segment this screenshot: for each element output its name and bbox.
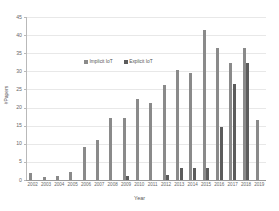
- x-tick-label: 2011: [146, 182, 159, 187]
- y-tick-label: 40: [5, 33, 22, 38]
- x-tick-label: 2019: [253, 182, 266, 187]
- y-tick-label: 35: [5, 51, 22, 56]
- bar-implicit-iot-2006: [83, 147, 86, 180]
- chart-legend: Implicit IoTExplicit IoT: [84, 59, 153, 64]
- bar-implicit-iot-2017: [229, 63, 232, 180]
- legend-swatch-icon: [124, 60, 128, 64]
- legend-entry: Implicit IoT: [84, 59, 113, 64]
- x-tick-label: 2012: [159, 182, 172, 187]
- bar-implicit-iot-2007: [96, 140, 99, 180]
- y-axis-line: [26, 17, 27, 180]
- x-tick-label: 2018: [239, 182, 252, 187]
- x-tick-label: 2017: [226, 182, 239, 187]
- legend-swatch-icon: [84, 60, 88, 64]
- x-tick-label: 2015: [199, 182, 212, 187]
- bar-implicit-iot-2002: [29, 173, 32, 180]
- bar-implicit-iot-2018: [243, 48, 246, 180]
- x-tick-label: 2008: [106, 182, 119, 187]
- bar-explicit-iot-2013: [180, 168, 183, 180]
- y-tick-label: 5: [5, 159, 22, 164]
- y-tick-label: 10: [5, 141, 22, 146]
- bar-implicit-iot-2010: [136, 99, 139, 180]
- bar-explicit-iot-2014: [193, 168, 196, 180]
- x-tick-label: 2006: [79, 182, 92, 187]
- bar-implicit-iot-2019: [256, 120, 259, 180]
- bar-implicit-iot-2009: [123, 118, 126, 180]
- x-tick-label: 2014: [186, 182, 199, 187]
- bar-implicit-iot-2015: [203, 30, 206, 180]
- x-axis-title: Year: [0, 195, 279, 201]
- y-tick-label: 30: [5, 69, 22, 74]
- legend-entry: Explicit IoT: [124, 59, 153, 64]
- legend-label: Explicit IoT: [129, 59, 152, 64]
- y-tick-label: 45: [5, 15, 22, 20]
- bar-implicit-iot-2011: [149, 103, 152, 180]
- x-tick-label: 2002: [26, 182, 39, 187]
- grid-line: [26, 17, 266, 18]
- bar-explicit-iot-2017: [233, 84, 236, 180]
- bar-explicit-iot-2016: [220, 127, 223, 180]
- x-tick-label: 2003: [39, 182, 52, 187]
- bar-implicit-iot-2012: [163, 85, 166, 180]
- bar-implicit-iot-2016: [216, 48, 219, 180]
- bar-implicit-iot-2008: [109, 118, 112, 180]
- legend-label: Implicit IoT: [90, 59, 113, 64]
- grid-line: [26, 35, 266, 36]
- x-axis-line: [26, 180, 266, 181]
- bar-implicit-iot-2014: [189, 73, 192, 180]
- y-tick-label: 0: [5, 178, 22, 183]
- x-tick-label: 2016: [213, 182, 226, 187]
- grid-line: [26, 53, 266, 54]
- x-tick-label: 2013: [173, 182, 186, 187]
- bar-implicit-iot-2005: [69, 172, 72, 180]
- bar-chart: 051015202530354045 200220032004200520062…: [0, 0, 279, 211]
- x-tick-label: 2009: [119, 182, 132, 187]
- x-tick-label: 2010: [133, 182, 146, 187]
- bar-explicit-iot-2015: [206, 168, 209, 180]
- x-tick-label: 2007: [93, 182, 106, 187]
- plot-area: [26, 17, 266, 180]
- x-tick-label: 2005: [66, 182, 79, 187]
- bar-implicit-iot-2013: [176, 70, 179, 180]
- y-tick-label: 15: [5, 123, 22, 128]
- y-axis-title: #Papers: [3, 75, 9, 115]
- x-tick-label: 2004: [53, 182, 66, 187]
- bar-explicit-iot-2018: [246, 63, 249, 180]
